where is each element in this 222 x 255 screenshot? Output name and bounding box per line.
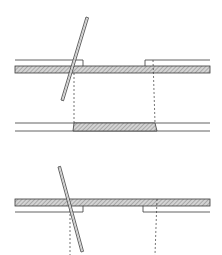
top-assembly [15,17,210,123]
top-step-line-right [145,60,210,66]
bottom-plate-hatched [15,199,210,206]
bottom-step-line-right [143,206,210,212]
middle-band [15,123,210,131]
top-plate-hatched [15,66,210,73]
bottom-projection-right [155,199,157,255]
bottom-needle [58,166,84,252]
bottom-assembly [15,166,210,255]
middle-band-hatched-section [73,123,157,131]
diagram-canvas [0,0,222,255]
top-needle [61,17,89,101]
